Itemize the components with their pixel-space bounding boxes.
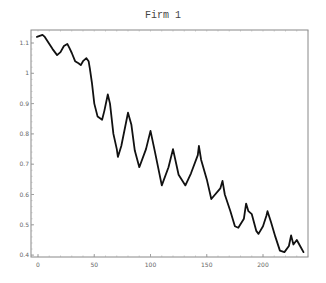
y-tick-label: 0.9 <box>19 100 29 107</box>
series-line-firm-1 <box>37 35 304 252</box>
y-tick-label: 1.1 <box>19 39 29 46</box>
line-chart: 0.40.50.60.70.80.911.1 050100150200 <box>0 0 326 283</box>
y-tick-label: 0.5 <box>19 221 29 228</box>
y-tick-label: 0.8 <box>19 130 29 137</box>
y-tick-label: 0.7 <box>19 160 29 167</box>
x-axis: 050100150200 <box>36 30 308 268</box>
plot-frame <box>31 30 308 257</box>
y-tick-label: 0.6 <box>19 191 29 198</box>
y-tick-label: 0.4 <box>19 251 29 258</box>
x-tick-label: 100 <box>145 261 157 268</box>
y-tick-label: 1 <box>25 69 29 76</box>
x-tick-label: 200 <box>257 261 269 268</box>
y-axis: 0.40.50.60.70.80.911.1 <box>19 37 34 258</box>
x-tick-label: 150 <box>201 261 213 268</box>
x-tick-label: 0 <box>36 261 40 268</box>
x-tick-label: 50 <box>90 261 98 268</box>
